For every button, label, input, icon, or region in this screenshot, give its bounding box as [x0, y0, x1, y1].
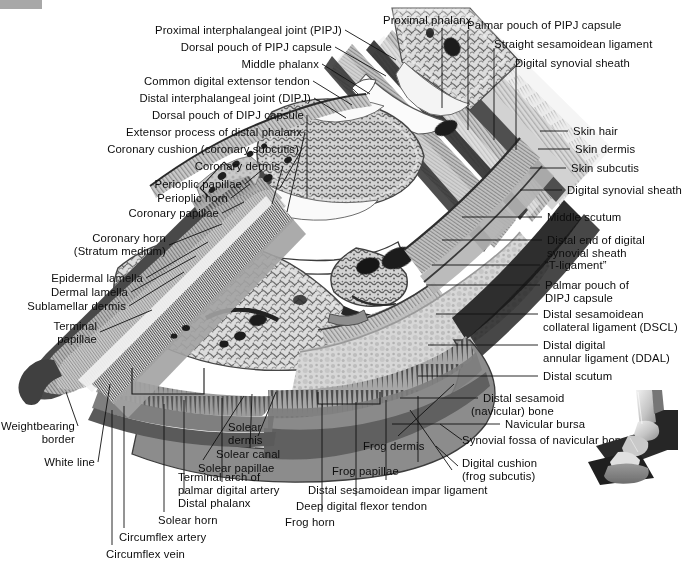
label-solear-papillae: Solear papillae	[198, 462, 274, 475]
label-distal-sesamoidean-impar-ligament: Distal sesamoidean impar ligament	[308, 484, 488, 497]
label-digital-synovial-sheath-top: Digital synovial sheath	[515, 57, 630, 70]
label-dermal-lamella: Dermal lamella	[0, 286, 128, 299]
label-digital-cushion-line1: Digital cushion	[462, 457, 537, 470]
label-t-ligament: “T-ligament”	[545, 259, 607, 272]
label-navicular-bone-line2: (navicular) bone	[471, 405, 554, 418]
label-distal-scutum: Distal scutum	[543, 370, 612, 383]
label-palmar-pouch-pipj: Palmar pouch of PIPJ capsule	[467, 19, 622, 32]
label-coronary-dermis: Coronary dermis	[0, 160, 280, 173]
label-dorsal-pouch-pipj: Dorsal pouch of PIPJ capsule	[0, 41, 332, 54]
label-frog-horn: Frog horn	[285, 516, 335, 529]
label-middle-phalanx: Middle phalanx	[0, 58, 319, 71]
label-straight-sesamoidean-ligament: Straight sesamoidean ligament	[494, 38, 652, 51]
label-distal-end-sheath-line2: synovial sheath	[547, 247, 627, 260]
label-perioplic-horn: Perioplic horn	[0, 192, 228, 205]
label-coronary-horn-line1: Coronary horn	[0, 232, 166, 245]
label-middle-scutum: Middle scutum	[547, 211, 621, 224]
label-terminal-papillae-line1: Terminal	[0, 320, 97, 333]
label-digital-synovial-sheath: Digital synovial sheath	[567, 184, 682, 197]
label-proximal-phalanx: Proximal phalanx	[383, 14, 471, 27]
label-ddal-line1: Distal digital	[543, 339, 606, 352]
label-circumflex-artery: Circumflex artery	[119, 531, 206, 544]
label-deep-digital-flexor-tendon: Deep digital flexor tendon	[296, 500, 427, 513]
label-solear-horn: Solear horn	[158, 514, 218, 527]
label-dorsal-pouch-dipj: Dorsal pouch of DIPJ capsule	[0, 109, 304, 122]
label-terminal-arch-line2: palmar digital artery	[178, 484, 280, 497]
orientation-inset-photo	[578, 388, 678, 485]
label-perioplic-papillae: Perioplic papillae	[0, 178, 242, 191]
label-navicular-bone-line1: Distal sesamoid	[483, 392, 564, 405]
label-palmar-pouch-dipj-line1: Palmar pouch of	[545, 279, 629, 292]
label-ddal-line2: annular ligament (DDAL)	[543, 352, 670, 365]
label-navicular-bursa: Navicular bursa	[505, 418, 585, 431]
label-coronary-papillae: Coronary papillae	[0, 207, 219, 220]
label-solear-canal: Solear canal	[216, 448, 280, 461]
label-sublamellar-dermis: Sublamellar dermis	[0, 300, 126, 313]
label-coronary-cushion: Coronary cushion (coronary subcutis)	[0, 143, 299, 156]
label-epidermal-lamella: Epidermal lamella	[0, 272, 143, 285]
label-coronary-horn-line2: (Stratum medium)	[0, 245, 166, 258]
label-frog-dermis: Frog dermis	[363, 440, 425, 453]
label-common-digital-extensor-tendon: Common digital extensor tendon	[0, 75, 310, 88]
label-extensor-process: Extensor process of distal phalanx	[0, 126, 302, 139]
label-weightbearing-border-line1: Weightbearing	[0, 420, 75, 433]
label-terminal-papillae-line2: papillae	[0, 333, 97, 346]
label-circumflex-vein: Circumflex vein	[106, 548, 185, 561]
label-digital-cushion-line2: (frog subcutis)	[462, 470, 535, 483]
label-dscl-line1: Distal sesamoidean	[543, 308, 644, 321]
label-palmar-pouch-dipj-line2: DIPJ capsule	[545, 292, 613, 305]
label-skin-dermis: Skin dermis	[575, 143, 635, 156]
label-distal-phalanx: Distal phalanx	[178, 497, 251, 510]
label-dipj: Distal interphalangeal joint (DIPJ)	[0, 92, 311, 105]
label-white-line: White line	[0, 456, 95, 469]
label-solear-dermis-line1: Solear	[228, 421, 261, 434]
label-dscl-line2: collateral ligament (DSCL)	[543, 321, 678, 334]
label-pipj: Proximal interphalangeal joint (PIPJ)	[0, 24, 342, 37]
label-skin-subcutis: Skin subcutis	[571, 162, 639, 175]
label-solear-dermis-line2: dermis	[228, 434, 263, 447]
label-skin-hair: Skin hair	[573, 125, 618, 138]
label-distal-end-sheath-line1: Distal end of digital	[547, 234, 645, 247]
label-frog-papillae: Frog papillae	[332, 465, 399, 478]
label-weightbearing-border-line2: border	[0, 433, 75, 446]
